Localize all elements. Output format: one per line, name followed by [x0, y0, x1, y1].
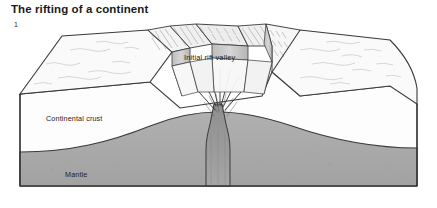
label-continental-crust: Continental crust: [46, 114, 102, 123]
page-title: The rifting of a continent: [11, 3, 148, 15]
figure-container: The rifting of a continent 1: [0, 0, 437, 208]
figure-number: 1: [14, 21, 18, 28]
label-mantle: Mantle: [65, 170, 87, 179]
label-initial-rift-valley: Initial rift valley: [184, 53, 235, 62]
